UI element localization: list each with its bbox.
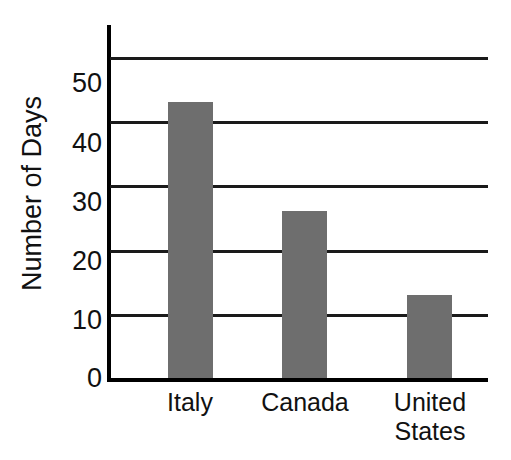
x-axis-line bbox=[107, 378, 488, 382]
y-tick-label: 30 bbox=[2, 189, 102, 216]
bar-chart-figure: Number of Days of Vacation Number of Day… bbox=[0, 0, 511, 460]
plot-area bbox=[110, 25, 488, 378]
gridline-30 bbox=[110, 185, 488, 188]
y-tick-label: 0 bbox=[2, 365, 102, 392]
bar-italy bbox=[168, 102, 213, 378]
bar-canada bbox=[282, 211, 327, 378]
x-tick-label-line: States bbox=[360, 417, 500, 446]
x-tick-label-canada: Canada bbox=[235, 388, 375, 417]
bar-united-states bbox=[407, 295, 452, 378]
y-tick-label: 40 bbox=[2, 130, 102, 157]
x-tick-label-line: United bbox=[360, 388, 500, 417]
x-tick-label-line: Canada bbox=[235, 388, 375, 417]
gridline-40 bbox=[110, 121, 488, 124]
y-tick-label: 50 bbox=[2, 70, 102, 97]
gridline-50 bbox=[110, 57, 488, 60]
y-axis-tick-labels: 50 40 30 20 10 0 bbox=[0, 0, 102, 460]
y-tick-label: 10 bbox=[2, 307, 102, 334]
x-tick-label-united-states: United States bbox=[360, 388, 500, 446]
y-tick-label: 20 bbox=[2, 248, 102, 275]
